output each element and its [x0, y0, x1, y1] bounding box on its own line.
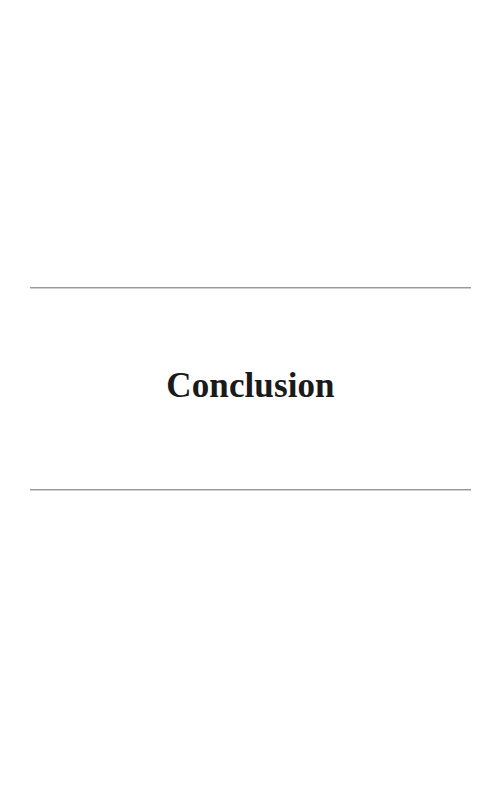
- page-blank-area-top: [0, 0, 500, 287]
- part-title-block: Conclusion: [30, 287, 471, 490]
- part-title-area: Conclusion: [30, 287, 471, 490]
- document-page: Conclusion: [0, 0, 500, 792]
- page-blank-area-bottom: [0, 490, 500, 792]
- page-title: Conclusion: [166, 367, 334, 410]
